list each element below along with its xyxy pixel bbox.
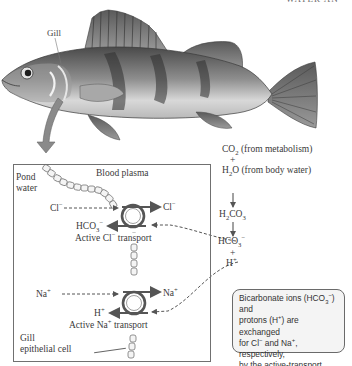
gill-label: Gill bbox=[47, 28, 61, 38]
hco3-ion-out: HCO3− bbox=[76, 221, 103, 231]
cl-ion-out: Cl− bbox=[163, 202, 176, 212]
pond-water-label: Pond water bbox=[16, 172, 37, 194]
reaction-h2o: H2O (from body water) bbox=[222, 165, 311, 175]
active-na-transport-label: Active Na+ transport bbox=[67, 320, 150, 330]
reaction-plus-1: + bbox=[230, 155, 235, 165]
cl-ion-in: Cl− bbox=[50, 203, 63, 213]
blood-plasma-label: Blood plasma bbox=[96, 168, 149, 178]
gill-epithelial-cell-label: Gill epithelial cell bbox=[20, 333, 71, 355]
active-cl-transport-label: Active Cl− transport bbox=[73, 233, 154, 243]
h-ion-out: H+ bbox=[94, 308, 105, 318]
na-ion-in: Na+ bbox=[36, 289, 51, 299]
explanation-note-box: Bicarbonate ions (HCO3−) and protons (H+… bbox=[232, 289, 345, 353]
reaction-h2co3: H2CO3 bbox=[219, 209, 246, 219]
reaction-co2: CO2 (from metabolism) bbox=[222, 144, 312, 154]
reaction-h: H+ bbox=[226, 258, 237, 268]
na-ion-out: Na+ bbox=[163, 288, 178, 298]
reaction-hco3: HCO3− bbox=[218, 236, 245, 246]
